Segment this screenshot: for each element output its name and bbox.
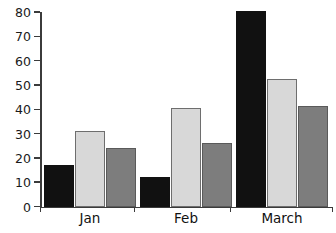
bar-feb-series-1 xyxy=(140,177,170,206)
y-tick-label: 80 xyxy=(15,5,31,20)
y-tick-label: 50 xyxy=(15,77,31,92)
bar-march-series-3 xyxy=(298,106,328,207)
bar-jan-series-2 xyxy=(75,131,105,206)
bar-feb-series-3 xyxy=(202,143,232,206)
y-tick-label: 70 xyxy=(15,29,31,44)
y-tick-label: 0 xyxy=(23,199,31,214)
plot-area: 01020304050607080 JanFebMarch xyxy=(0,0,336,233)
x-axis-end-tick xyxy=(332,207,333,212)
x-axis-label-feb: Feb xyxy=(174,210,198,226)
y-tick-mark xyxy=(34,157,40,158)
bar-march-series-2 xyxy=(267,79,297,207)
y-tick-label: 40 xyxy=(15,102,31,117)
bar-march-series-1 xyxy=(236,11,266,207)
y-axis-line xyxy=(40,12,42,208)
x-axis-label-march: March xyxy=(261,210,302,226)
bar-jan-series-1 xyxy=(44,165,74,206)
y-tick-label: 30 xyxy=(15,126,31,141)
y-tick-mark xyxy=(34,11,40,12)
x-axis-label-jan: Jan xyxy=(80,210,101,226)
y-tick-mark xyxy=(34,60,40,61)
y-tick-label: 10 xyxy=(15,175,31,190)
y-tick-mark xyxy=(34,133,40,134)
bar-feb-series-2 xyxy=(171,108,201,206)
x-tick-mark xyxy=(134,207,135,212)
bar-chart: 01020304050607080 JanFebMarch xyxy=(0,0,336,233)
y-tick-mark xyxy=(34,84,40,85)
y-tick-mark xyxy=(34,181,40,182)
y-tick-mark xyxy=(34,109,40,110)
x-tick-mark xyxy=(230,207,231,212)
x-axis-line xyxy=(40,207,333,209)
bar-jan-series-3 xyxy=(106,148,136,206)
y-tick-label: 60 xyxy=(15,53,31,68)
x-axis-start-tick xyxy=(40,207,41,212)
y-tick-label: 20 xyxy=(15,150,31,165)
y-tick-mark xyxy=(34,36,40,37)
